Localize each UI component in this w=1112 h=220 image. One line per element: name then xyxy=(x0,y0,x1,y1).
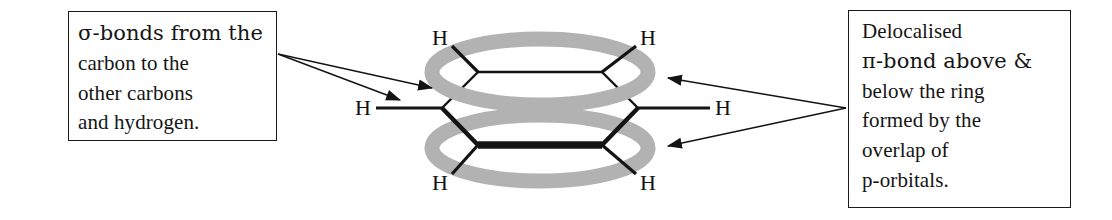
leader-line-pi-cloud-above xyxy=(668,78,846,108)
delocalised-pi-bond-callout-box: Delocalised π-bond above & below the rin… xyxy=(848,10,1071,208)
callout-right-line-2: π-bond above & xyxy=(862,47,1070,77)
callout-right-line-5: overlap of xyxy=(862,136,1070,166)
benzene-pi-bond-figure: H H H H H H σ-bonds from the carbon to t… xyxy=(0,0,1112,220)
callout-right-line-1: Delocalised xyxy=(862,17,1070,47)
h-label-top-right: H xyxy=(640,25,656,51)
sigma-bonds-callout-box: σ-bonds from the carbon to the other car… xyxy=(68,11,277,141)
h-label-top-left: H xyxy=(432,25,448,51)
callout-right-line-6: p-orbitals. xyxy=(862,166,1070,196)
callout-right-line-4: formed by the xyxy=(862,106,1070,136)
h-label-right: H xyxy=(715,95,731,121)
callout-left-line-1: σ-bonds from the xyxy=(78,19,276,49)
callout-left-line-4: and hydrogen. xyxy=(78,108,276,138)
h-label-bottom-left: H xyxy=(432,170,448,196)
callout-right-line-3: below the ring xyxy=(862,77,1070,107)
h-label-left: H xyxy=(355,95,371,121)
left-callout-leader-lines xyxy=(278,54,432,100)
h-label-bottom-right: H xyxy=(640,170,656,196)
callout-left-line-3: other carbons xyxy=(78,79,276,109)
leader-line-pi-cloud-below xyxy=(668,108,846,146)
right-callout-leader-lines xyxy=(668,78,846,146)
callout-left-line-2: carbon to the xyxy=(78,49,276,79)
